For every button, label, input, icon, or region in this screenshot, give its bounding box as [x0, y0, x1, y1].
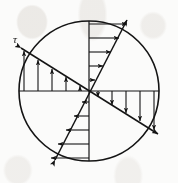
figure-container: τ: [0, 0, 178, 183]
shear-stress-diagram: τ: [0, 0, 178, 183]
tau-label: τ: [13, 33, 18, 45]
